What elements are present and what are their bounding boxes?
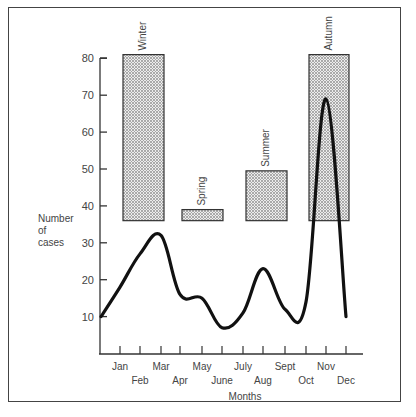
- y-axis-label: Numberofcases: [38, 213, 74, 248]
- y-tick-label: 20: [82, 274, 94, 286]
- y-tick-label: 10: [82, 311, 94, 323]
- y-axis-ticks: 1020304050607080: [82, 52, 107, 322]
- x-axis-ticks: JanFebMarAprMayJuneJulyAugSeptOctNovDec: [112, 346, 355, 386]
- x-tick-label: Sept: [275, 361, 296, 372]
- x-tick-label: Jan: [112, 361, 128, 372]
- season-label-summer: Summer: [261, 128, 272, 166]
- season-label-autumn: Autumn: [323, 16, 334, 50]
- x-tick-label: May: [193, 361, 212, 372]
- season-label-spring: Spring: [197, 177, 208, 206]
- season-label-winter: Winter: [138, 21, 149, 51]
- y-tick-label: 80: [82, 52, 94, 64]
- x-tick-label: Feb: [131, 375, 149, 386]
- x-tick-label: July: [234, 361, 252, 372]
- y-tick-label: 60: [82, 126, 94, 138]
- x-tick-label: Dec: [337, 375, 355, 386]
- x-tick-label: Oct: [298, 375, 314, 386]
- chart-canvas: WinterSpringSummerAutumn 102030405060708…: [0, 0, 416, 417]
- season-bar-spring: [182, 210, 223, 221]
- y-tick-label: 70: [82, 89, 94, 101]
- y-tick-label: 40: [82, 200, 94, 212]
- x-tick-label: Aug: [254, 375, 272, 386]
- season-bar-winter: [123, 55, 164, 221]
- x-tick-label: Mar: [152, 361, 170, 372]
- x-tick-label: Nov: [317, 361, 335, 372]
- y-tick-label: 30: [82, 237, 94, 249]
- x-axis-label: Months: [229, 391, 262, 402]
- season-bar-summer: [246, 171, 287, 221]
- x-tick-label: Apr: [172, 375, 188, 386]
- x-tick-label: June: [211, 375, 233, 386]
- y-tick-label: 50: [82, 163, 94, 175]
